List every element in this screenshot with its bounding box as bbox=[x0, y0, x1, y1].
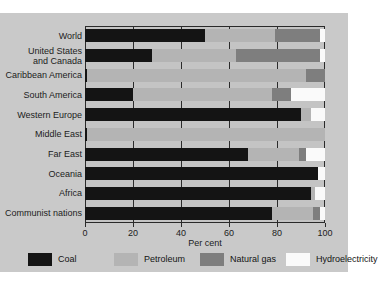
bar-segment-hydro bbox=[320, 49, 325, 62]
category-label: Africa bbox=[0, 188, 82, 198]
legend-label: Petroleum bbox=[144, 254, 185, 264]
category-label: World bbox=[0, 31, 82, 41]
category-axis-labels: WorldUnited States and CanadaCaribbean A… bbox=[0, 26, 82, 223]
bar-row bbox=[85, 187, 325, 200]
bar-segment-hydro bbox=[311, 108, 325, 121]
bar-segment-coal bbox=[85, 29, 205, 42]
category-label: Oceania bbox=[0, 169, 82, 179]
bar-row bbox=[85, 167, 325, 180]
bar-row bbox=[85, 128, 325, 141]
legend-item-gas: Natural gas bbox=[200, 252, 276, 266]
legend-swatch-gas bbox=[200, 253, 224, 266]
axis-tick bbox=[325, 223, 326, 227]
bar-segment-coal bbox=[85, 148, 248, 161]
bar-segment-petroleum bbox=[248, 148, 298, 161]
bar-segment-petroleum bbox=[272, 207, 313, 220]
legend-swatch-hydro bbox=[286, 253, 310, 266]
bar-segment-hydro bbox=[320, 29, 325, 42]
bar-segment-coal bbox=[85, 167, 318, 180]
category-label: Communist nations bbox=[0, 208, 82, 218]
bar-segment-gas bbox=[272, 88, 291, 101]
legend-item-petroleum: Petroleum bbox=[114, 252, 185, 266]
category-label: United States and Canada bbox=[0, 46, 82, 66]
legend-item-hydro: Hydroelectricity bbox=[286, 252, 378, 266]
bar-segment-gas bbox=[299, 148, 306, 161]
bar-segment-coal bbox=[85, 187, 311, 200]
bar-segment-hydro bbox=[315, 187, 325, 200]
bar-rows bbox=[85, 26, 325, 223]
axis-tick-label: 60 bbox=[224, 228, 234, 238]
bar-segment-gas bbox=[313, 207, 320, 220]
bar-segment-gas bbox=[306, 69, 325, 82]
axis-tick-label: 80 bbox=[272, 228, 282, 238]
chart-legend: CoalPetroleumNatural gasHydroelectricity bbox=[28, 252, 338, 268]
bar-segment-petroleum bbox=[87, 128, 325, 141]
category-label: Far East bbox=[0, 149, 82, 159]
legend-label: Hydroelectricity bbox=[316, 254, 378, 264]
bar-segment-petroleum bbox=[152, 49, 236, 62]
legend-swatch-petroleum bbox=[114, 253, 138, 266]
axis-tick-label: 0 bbox=[82, 228, 87, 238]
bar-row bbox=[85, 29, 325, 42]
axis-tick bbox=[229, 223, 230, 227]
legend-label: Natural gas bbox=[230, 254, 276, 264]
bar-segment-gas bbox=[275, 29, 321, 42]
bar-row bbox=[85, 148, 325, 161]
bar-segment-petroleum bbox=[87, 69, 305, 82]
axis-tick-label: 20 bbox=[128, 228, 138, 238]
legend-swatch-coal bbox=[28, 253, 52, 266]
bar-segment-hydro bbox=[318, 167, 325, 180]
legend-label: Coal bbox=[58, 254, 77, 264]
bar-segment-petroleum bbox=[133, 88, 272, 101]
axis-tick-label: 40 bbox=[176, 228, 186, 238]
bar-row bbox=[85, 69, 325, 82]
bar-segment-coal bbox=[85, 108, 301, 121]
category-label: Western Europe bbox=[0, 110, 82, 120]
x-axis-title: Per cent bbox=[85, 238, 325, 248]
legend-item-coal: Coal bbox=[28, 252, 77, 266]
bar-segment-hydro bbox=[306, 148, 325, 161]
axis-tick-label: 100 bbox=[317, 228, 332, 238]
bar-segment-hydro bbox=[320, 207, 325, 220]
bar-segment-coal bbox=[85, 88, 133, 101]
bar-segment-coal bbox=[85, 207, 272, 220]
bar-segment-petroleum bbox=[205, 29, 275, 42]
bar-row bbox=[85, 88, 325, 101]
bar-row bbox=[85, 49, 325, 62]
axis-tick bbox=[85, 223, 86, 227]
bar-segment-coal bbox=[85, 49, 152, 62]
bar-row bbox=[85, 108, 325, 121]
category-label: South America bbox=[0, 90, 82, 100]
bar-row bbox=[85, 207, 325, 220]
category-label: Middle East bbox=[0, 129, 82, 139]
bar-segment-gas bbox=[236, 49, 320, 62]
axis-tick bbox=[133, 223, 134, 227]
category-label: Caribbean America bbox=[0, 70, 82, 80]
bar-segment-petroleum bbox=[301, 108, 311, 121]
axis-tick bbox=[277, 223, 278, 227]
axis-tick bbox=[181, 223, 182, 227]
bar-segment-hydro bbox=[291, 88, 325, 101]
